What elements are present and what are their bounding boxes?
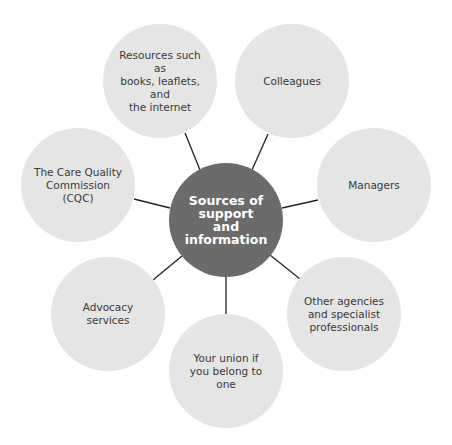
- node-cqc-label: The Care Quality Commission (CQC): [31, 166, 125, 205]
- node-colleagues-label: Colleagues: [263, 75, 321, 88]
- node-resources-label: Resources such as books, leaflets, and t…: [113, 49, 207, 114]
- node-advocacy-label: Advocacy services: [61, 301, 155, 327]
- connector-resources: [185, 133, 200, 170]
- node-advocacy: Advocacy services: [51, 257, 165, 371]
- node-managers: Managers: [317, 128, 431, 242]
- node-managers-label: Managers: [348, 179, 400, 192]
- center-hub: Sources of support and information: [169, 163, 283, 277]
- connector-advocacy: [153, 256, 182, 280]
- connector-managers: [282, 200, 318, 208]
- node-union: Your union if you belong to one: [169, 314, 283, 428]
- connector-colleagues: [252, 134, 268, 170]
- node-cqc: The Care Quality Commission (CQC): [21, 128, 135, 242]
- node-colleagues: Colleagues: [235, 24, 349, 138]
- node-other-agencies: Other agencies and specialist profession…: [287, 257, 401, 371]
- node-resources: Resources such as books, leaflets, and t…: [103, 24, 217, 138]
- node-other-agencies-label: Other agencies and specialist profession…: [304, 295, 384, 334]
- node-union-label: Your union if you belong to one: [179, 352, 273, 391]
- connector-other-agencies: [270, 255, 300, 279]
- connector-cqc: [134, 199, 170, 208]
- center-hub-label: Sources of support and information: [177, 194, 275, 246]
